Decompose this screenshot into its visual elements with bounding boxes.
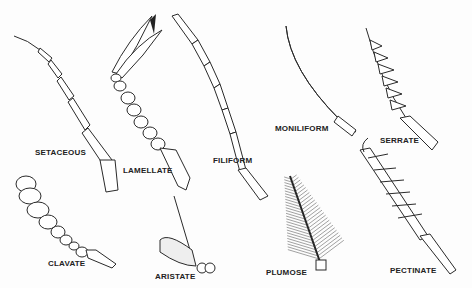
setaceous-antenna [14,36,118,192]
plumose-antenna [284,175,344,270]
serrate-antenna [366,28,438,150]
clavate-antenna [16,176,116,268]
label-plumose: PLUMOSE [266,268,307,277]
label-filiform: FILIFORM [213,156,252,165]
aristate-antenna [160,196,215,273]
pectinate-antenna [360,138,456,274]
label-lamellate: LAMELLATE [123,166,173,175]
label-serrate: SERRATE [380,136,419,145]
label-pectinate: PECTINATE [390,266,437,275]
lamellate-antenna [111,14,190,190]
label-setaceous: SETACEOUS [35,148,86,157]
label-aristate: ARISTATE [155,272,195,281]
label-clavate: CLAVATE [48,259,85,268]
antenna-types-figure: SETACEOUS LAMELLATE FILIFORM MONILIFORM … [0,0,472,288]
moniliform-antenna [286,26,356,136]
label-moniliform: MONILIFORM [275,124,329,133]
